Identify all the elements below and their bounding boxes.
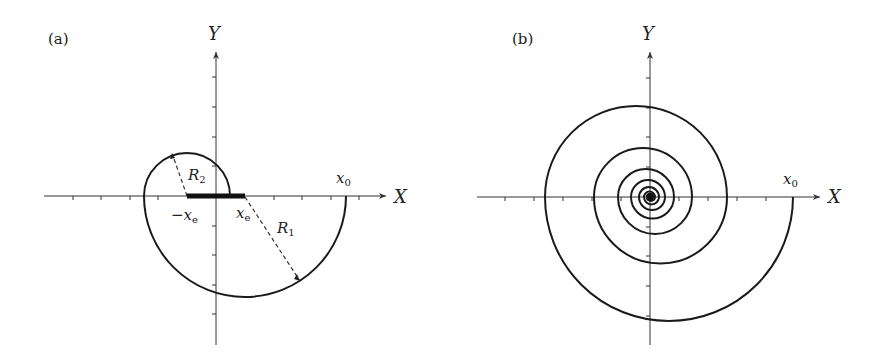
y-axis-label: Y (208, 23, 222, 44)
radius-R1-line (245, 197, 300, 281)
panel-a-label: (a) (48, 30, 69, 48)
x-axis-label: X (392, 186, 408, 207)
figure: (a) X Y (0, 0, 887, 363)
radius-R2-line (173, 156, 187, 196)
trajectory-arc-R2 (144, 153, 230, 196)
spiral-trajectory (545, 106, 793, 321)
label-R1: R1 (276, 219, 295, 238)
spiral-center-point (646, 193, 654, 201)
label-neg-xe: −xe (171, 206, 198, 225)
x-axis-label: X (826, 186, 842, 207)
radius-R1-arrowhead-icon (294, 274, 300, 281)
label-xe: xe (236, 204, 250, 223)
y-axis-label: Y (642, 23, 656, 44)
panel-b: (b) X Y (477, 23, 842, 345)
label-x0: x0 (783, 170, 798, 189)
label-R2: R2 (187, 166, 206, 185)
panel-a: (a) X Y (44, 23, 408, 345)
label-x0: x0 (336, 169, 351, 188)
panel-b-label: (b) (512, 30, 533, 48)
